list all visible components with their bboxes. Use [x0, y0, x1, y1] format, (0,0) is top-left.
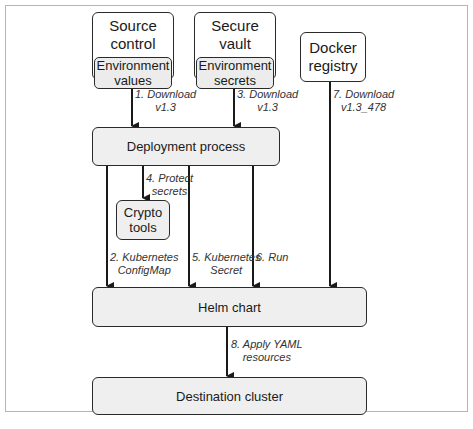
node-crypto-tools: Crypto tools: [116, 200, 170, 240]
edge-4-line2: secrets: [146, 185, 193, 198]
edge-label-8: 8. Apply YAML resources: [231, 338, 303, 364]
edge-4-line1: 4. Protect: [146, 172, 193, 185]
edge-label-2: 2. Kubernetes ConfigMap: [110, 251, 179, 277]
node-secure-vault: Secure vault Environment secrets: [194, 12, 276, 80]
edge-3-line1: 3. Download: [237, 88, 298, 101]
edge-5-line1: 5. Kubernetes: [192, 251, 261, 264]
node-deployment-process: Deployment process: [92, 127, 280, 166]
docker-registry-title: Docker registry: [303, 39, 363, 75]
edge-1-line1: 1. Download: [135, 88, 196, 101]
edge-1-line2: v1.3: [135, 101, 196, 114]
node-source-control: Source control Environment values: [92, 12, 174, 80]
edge-5-line2: Secret: [192, 264, 261, 277]
edge-8-line2: resources: [231, 351, 303, 364]
edge-label-7: 7. Download v1.3_478: [333, 88, 394, 114]
environment-secrets-box: Environment secrets: [196, 57, 274, 89]
node-docker-registry: Docker registry: [300, 32, 366, 82]
edge-2-line2: ConfigMap: [110, 264, 179, 277]
edge-8-line1: 8. Apply YAML: [231, 338, 303, 351]
edge-label-1: 1. Download v1.3: [135, 88, 196, 114]
source-control-title: Source control: [93, 17, 173, 53]
environment-values-box: Environment values: [94, 57, 172, 89]
node-destination-cluster: Destination cluster: [92, 377, 367, 415]
edge-7-line2: v1.3_478: [333, 101, 394, 114]
helm-chart-label: Helm chart: [198, 300, 261, 315]
deployment-process-label: Deployment process: [127, 139, 246, 154]
secure-vault-title: Secure vault: [195, 17, 275, 53]
crypto-tools-label: Crypto tools: [119, 205, 167, 235]
edge-label-4: 4. Protect secrets: [146, 172, 193, 198]
edge-label-3: 3. Download v1.3: [237, 88, 298, 114]
edge-label-6: 6. Run: [256, 251, 288, 264]
edge-2-line1: 2. Kubernetes: [110, 251, 179, 264]
edge-label-5: 5. Kubernetes Secret: [192, 251, 261, 277]
node-helm-chart: Helm chart: [92, 287, 367, 327]
destination-cluster-label: Destination cluster: [176, 389, 283, 404]
edge-6-line1: 6. Run: [256, 251, 288, 264]
edge-7-line1: 7. Download: [333, 88, 394, 101]
edge-3-line2: v1.3: [237, 101, 298, 114]
